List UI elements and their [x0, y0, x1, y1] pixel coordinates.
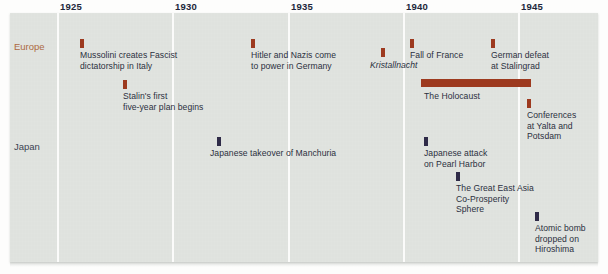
- event-label-pearl-harbor: Japanese attack on Pearl Harbor: [424, 148, 487, 169]
- event-marker-german-defeat-stalingrad[interactable]: [491, 39, 495, 48]
- timeline-figure: 19251930193519401945 EuropeJapan Mussoli…: [0, 0, 608, 274]
- event-marker-mussolini[interactable]: [80, 39, 84, 48]
- event-marker-greater-east-asia-co-prosperity-sphere[interactable]: [456, 172, 460, 181]
- event-marker-kristallnacht[interactable]: [381, 48, 385, 57]
- event-label-atomic-bomb-hiroshima: Atomic bomb dropped on Hiroshima: [535, 223, 586, 255]
- event-marker-stalin-five-year-plan[interactable]: [123, 80, 127, 89]
- event-label-kristallnacht: Kristallnacht: [370, 60, 417, 71]
- event-marker-japanese-takeover-manchuria[interactable]: [217, 137, 221, 146]
- event-label-conferences-yalta-potsdam: Conferences at Yalta and Potsdam: [527, 110, 576, 142]
- event-marker-hitler-nazis-power[interactable]: [251, 39, 255, 48]
- event-marker-fall-of-france[interactable]: [410, 39, 414, 48]
- event-label-japanese-takeover-manchuria: Japanese takeover of Manchuria: [210, 148, 336, 159]
- event-label-german-defeat-stalingrad: German defeat at Stalingrad: [491, 50, 549, 71]
- year-tick-label-1940: 1940: [406, 1, 428, 12]
- year-tick-label-1925: 1925: [60, 1, 82, 12]
- event-label-mussolini: Mussolini creates Fascist dictatorship i…: [80, 50, 177, 71]
- event-span-the-holocaust[interactable]: [421, 79, 531, 87]
- gridline-1925: [57, 13, 59, 262]
- row-label-europe: Europe: [14, 41, 45, 52]
- gridline-1940: [403, 13, 405, 262]
- row-label-japan: Japan: [14, 141, 40, 152]
- event-marker-conferences-yalta-potsdam[interactable]: [527, 99, 531, 108]
- event-marker-atomic-bomb-hiroshima[interactable]: [535, 212, 539, 221]
- event-label-fall-of-france: Fall of France: [410, 50, 463, 61]
- event-label-hitler-nazis-power: Hitler and Nazis come to power in German…: [251, 50, 336, 71]
- event-label-the-holocaust: The Holocaust: [424, 91, 480, 102]
- year-tick-label-1935: 1935: [291, 1, 313, 12]
- year-tick-label-1945: 1945: [521, 1, 543, 12]
- event-marker-pearl-harbor[interactable]: [424, 137, 428, 146]
- event-label-greater-east-asia-co-prosperity-sphere: The Great East Asia Co-Prosperity Sphere: [456, 183, 534, 215]
- event-label-stalin-five-year-plan: Stalin's first five-year plan begins: [123, 91, 203, 112]
- page-edge-shadow: [10, 262, 598, 267]
- year-tick-label-1930: 1930: [175, 1, 197, 12]
